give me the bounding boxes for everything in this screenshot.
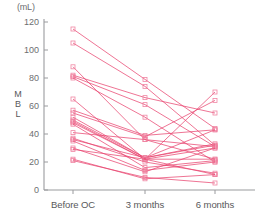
series-path (73, 123, 215, 159)
series-path (73, 75, 215, 113)
chart-container: (mL) M B L 020406080100120 Before OC3 mo… (0, 0, 259, 215)
series-path (73, 43, 215, 145)
series-path (73, 29, 215, 128)
series-path (73, 159, 215, 179)
series-line (71, 122, 217, 169)
series-group (71, 27, 217, 185)
series-line (71, 73, 217, 115)
series-line (71, 90, 217, 161)
plot-area (0, 0, 259, 215)
axes-group (44, 19, 255, 194)
